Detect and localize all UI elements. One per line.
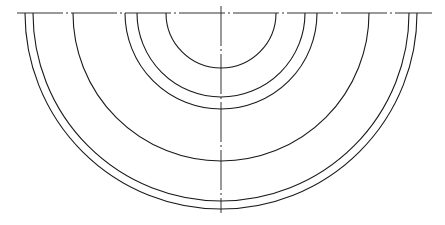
drawing-canvas	[0, 0, 445, 225]
